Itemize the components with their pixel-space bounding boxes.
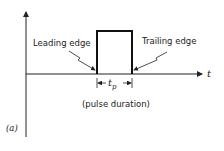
leading-edge-label: Leading edge bbox=[33, 38, 91, 48]
pulse-diagram: t Leading edge Trailing edge tp (pulse d… bbox=[0, 0, 224, 151]
trailing-edge-arrow bbox=[134, 52, 167, 70]
rectangular-pulse bbox=[97, 31, 132, 74]
leading-edge-arrow bbox=[69, 51, 95, 70]
panel-label: (a) bbox=[6, 123, 18, 133]
trailing-edge-label: Trailing edge bbox=[141, 36, 196, 46]
pulse-duration-caption: (pulse duration) bbox=[82, 99, 150, 109]
time-axis-label: t bbox=[207, 68, 212, 79]
pulse-width-symbol: tp bbox=[108, 77, 117, 91]
